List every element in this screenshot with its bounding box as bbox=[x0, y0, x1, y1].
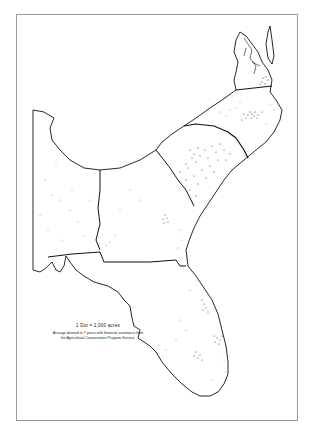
map-legend: 1 Dot = 2,000 acres Acreage drained in 7… bbox=[52, 323, 144, 340]
region-outline bbox=[33, 32, 282, 396]
border-sc-ga bbox=[156, 150, 194, 206]
border-ga-al bbox=[96, 170, 100, 250]
delmarva-outline bbox=[266, 26, 274, 64]
legend-scale: 1 Dot = 2,000 acres bbox=[52, 323, 144, 328]
border-va-nc bbox=[236, 86, 272, 90]
legend-caption: Acreage drained in 7 years with financia… bbox=[52, 331, 144, 340]
border-al-fl bbox=[48, 252, 186, 266]
border-nc-sc bbox=[184, 124, 248, 158]
southeast-us-map bbox=[0, 0, 313, 435]
